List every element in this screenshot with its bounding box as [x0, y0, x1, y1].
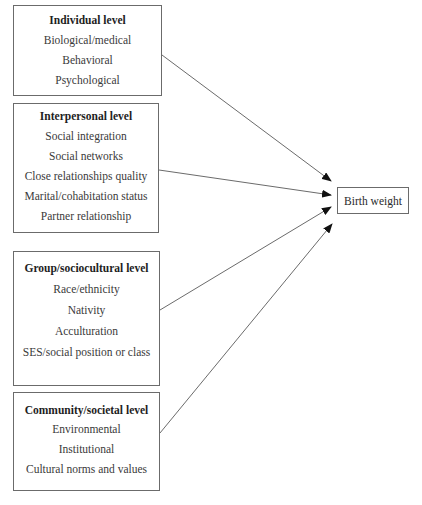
level-title: Individual level — [14, 14, 161, 26]
level-item: Race/ethnicity — [14, 283, 159, 295]
level-item: Behavioral — [14, 54, 161, 66]
arrow-community-to-birth-weight — [160, 224, 332, 433]
level-item: Partner relationship — [14, 210, 158, 222]
level-item: Close relationships quality — [14, 170, 158, 182]
level-box-group-sociocultural: Group/sociocultural level Race/ethnicity… — [13, 251, 160, 386]
level-item: Acculturation — [14, 325, 159, 337]
level-box-interpersonal: Interpersonal level Social integration S… — [13, 103, 159, 233]
level-title: Group/sociocultural level — [14, 262, 159, 274]
level-item: Social networks — [14, 150, 158, 162]
arrow-group-to-birth-weight — [160, 207, 331, 310]
level-item: Cultural norms and values — [14, 463, 159, 475]
level-item: Social integration — [14, 130, 158, 142]
level-item: SES/social position or class — [14, 346, 159, 358]
level-box-community-societal: Community/societal level Environmental I… — [13, 392, 160, 491]
level-item: Institutional — [14, 443, 159, 455]
level-title: Interpersonal level — [14, 110, 158, 122]
level-title: Community/societal level — [14, 404, 159, 416]
level-item: Biological/medical — [14, 34, 161, 46]
level-item: Marital/cohabitation status — [14, 190, 158, 202]
level-item: Psychological — [14, 74, 161, 86]
level-item: Nativity — [14, 304, 159, 316]
level-item: Environmental — [14, 423, 159, 435]
outcome-label: Birth weight — [344, 195, 402, 207]
arrow-individual-to-birth-weight — [162, 55, 331, 181]
level-box-individual: Individual level Biological/medical Beha… — [13, 5, 162, 96]
outcome-box-birth-weight: Birth weight — [337, 187, 409, 214]
arrow-interpersonal-to-birth-weight — [159, 170, 331, 195]
